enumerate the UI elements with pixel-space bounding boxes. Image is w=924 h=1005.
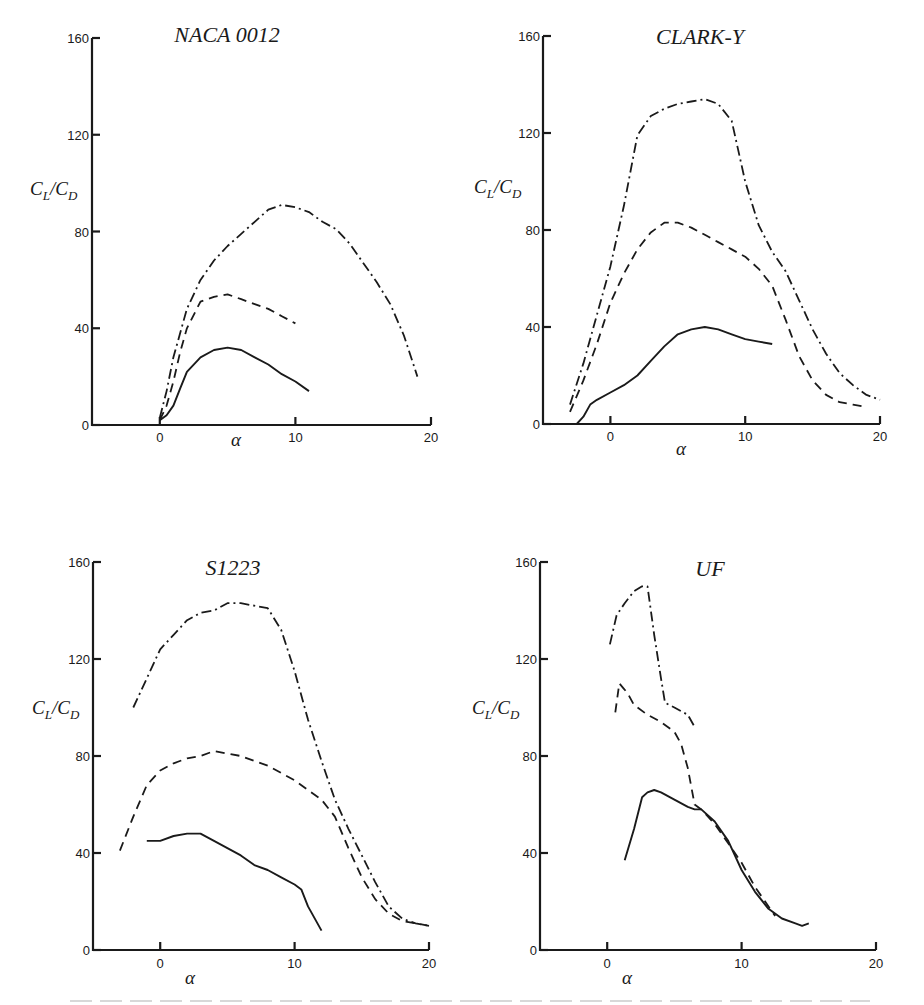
y-tick-label: 0 — [82, 418, 89, 433]
x-tick-label: 10 — [287, 956, 301, 971]
x-tick-label: 0 — [607, 429, 614, 444]
x-axis-label: α — [231, 429, 242, 450]
chart-panel-naca-0012: 0408012016001020NACA 0012CL/CDα — [0, 0, 462, 480]
chart-panel-clark-y: 0408012016001020CLARK-YCL/CDα — [462, 0, 924, 480]
x-axis-label: α — [676, 438, 687, 459]
y-tick-label: 160 — [68, 555, 90, 570]
y-tick-label: 40 — [75, 321, 89, 336]
x-axis-label: α — [622, 967, 633, 988]
line-chart-s1223: 0408012016001020S1223CL/CDα — [0, 480, 462, 993]
y-tick-label: 80 — [523, 749, 537, 764]
axis-lines — [540, 562, 876, 950]
y-axis-label: CL/CD — [30, 178, 78, 203]
x-tick-label: 20 — [869, 956, 883, 971]
x-tick-label: 0 — [604, 956, 611, 971]
x-tick-label: 10 — [738, 429, 752, 444]
axis-lines — [543, 36, 880, 424]
series-group — [610, 586, 809, 926]
line-chart-uf: 0408012016001020UFCL/CDα — [462, 480, 924, 993]
y-tick-label: 80 — [75, 225, 89, 240]
series-group — [570, 99, 880, 424]
series-group — [120, 603, 429, 930]
axes: 0408012016001020 — [67, 31, 438, 445]
chart-title: S1223 — [206, 555, 261, 580]
series-solid — [147, 834, 322, 931]
series-dashed — [615, 683, 775, 916]
y-tick-label: 0 — [530, 943, 537, 958]
axes: 0408012016001020 — [518, 29, 887, 444]
series-dashed — [160, 294, 296, 420]
y-tick-label: 40 — [523, 846, 537, 861]
x-tick-label: 20 — [873, 429, 887, 444]
y-axis-label: CL/CD — [472, 697, 520, 722]
y-tick-label: 120 — [67, 128, 89, 143]
caption-fragment — [70, 1000, 870, 1002]
y-tick-label: 120 — [68, 652, 90, 667]
cropped-caption-strip — [0, 993, 924, 1005]
x-tick-label: 20 — [422, 956, 436, 971]
series-group — [160, 205, 418, 420]
series-dash-dot — [610, 586, 695, 727]
y-axis-label: CL/CD — [474, 176, 522, 201]
chart-title: CLARK-Y — [656, 24, 747, 49]
y-tick-label: 160 — [518, 29, 540, 44]
series-dash-dot — [160, 205, 418, 418]
series-solid — [160, 348, 309, 421]
chart-panel-uf: 0408012016001020UFCL/CDα — [462, 480, 924, 993]
y-tick-label: 0 — [83, 943, 90, 958]
line-chart-naca-0012: 0408012016001020NACA 0012CL/CDα — [0, 0, 462, 480]
line-chart-clark-y: 0408012016001020CLARK-YCL/CDα — [462, 0, 924, 480]
x-tick-label: 10 — [288, 430, 302, 445]
x-tick-label: 20 — [424, 430, 438, 445]
axis-lines — [92, 38, 431, 425]
series-dashed — [570, 223, 867, 412]
y-tick-label: 120 — [518, 126, 540, 141]
y-tick-label: 0 — [533, 417, 540, 432]
series-dash-dot — [570, 99, 880, 405]
axes: 0408012016001020 — [515, 555, 883, 971]
y-tick-label: 80 — [526, 223, 540, 238]
y-tick-label: 120 — [515, 652, 537, 667]
axis-lines — [93, 562, 429, 950]
chart-title: NACA 0012 — [173, 22, 279, 47]
x-axis-label: α — [185, 967, 196, 988]
x-tick-label: 10 — [734, 956, 748, 971]
axes: 0408012016001020 — [68, 555, 436, 971]
y-tick-label: 80 — [76, 749, 90, 764]
y-tick-label: 160 — [67, 31, 89, 46]
series-solid — [577, 327, 773, 424]
chart-title: UF — [695, 556, 725, 581]
x-tick-label: 0 — [157, 956, 164, 971]
y-tick-label: 160 — [515, 555, 537, 570]
x-tick-label: 0 — [156, 430, 163, 445]
series-solid — [625, 790, 809, 926]
y-axis-label: CL/CD — [32, 697, 80, 722]
y-tick-label: 40 — [76, 846, 90, 861]
y-tick-label: 40 — [526, 320, 540, 335]
chart-panel-s1223: 0408012016001020S1223CL/CDα — [0, 480, 462, 993]
